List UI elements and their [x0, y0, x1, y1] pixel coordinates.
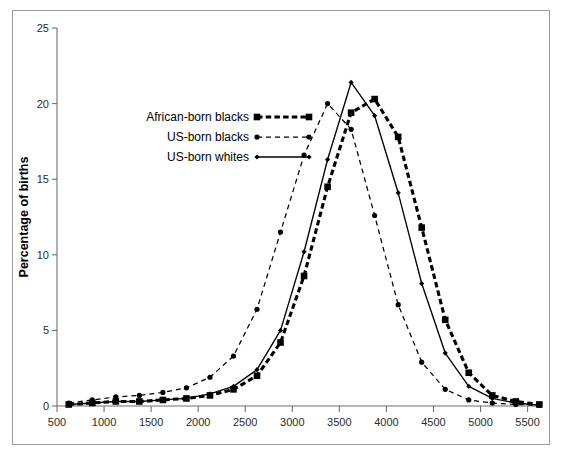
x-tick-label: 500: [48, 416, 66, 428]
data-point-marker: [325, 101, 330, 106]
y-axis-title: Percentage of births: [17, 157, 31, 278]
data-point-marker: [490, 400, 495, 405]
x-tick-label: 4500: [421, 416, 445, 428]
data-point-marker: [254, 307, 259, 312]
x-tick-label: 5500: [515, 416, 539, 428]
y-tick-label: 20: [37, 98, 49, 110]
x-axis-title: Birth weight (g): [251, 443, 343, 444]
data-point-marker: [324, 183, 331, 190]
x-tick-label: 2500: [233, 416, 257, 428]
data-point-marker: [306, 114, 313, 121]
data-point-marker: [465, 369, 472, 376]
data-point-marker: [442, 317, 449, 324]
data-point-marker: [419, 360, 424, 365]
y-tick-label: 10: [37, 249, 49, 261]
data-point-marker: [419, 281, 424, 286]
data-point-marker: [372, 213, 377, 218]
data-point-marker: [160, 390, 165, 395]
data-point-marker: [231, 354, 236, 359]
data-point-marker: [254, 134, 259, 139]
data-point-marker: [396, 302, 401, 307]
legend-label-2: US-born blacks: [167, 130, 249, 144]
data-point-marker: [301, 273, 308, 280]
y-tick-label: 0: [43, 400, 49, 412]
legend-label-1: African-born blacks: [146, 110, 249, 124]
data-point-marker: [325, 157, 330, 162]
data-point-marker: [254, 154, 259, 159]
x-tick-label: 5000: [468, 416, 492, 428]
x-tick-label: 3000: [280, 416, 304, 428]
y-tick-label: 15: [37, 173, 49, 185]
data-point-marker: [443, 387, 448, 392]
x-tick-label: 4000: [374, 416, 398, 428]
data-point-marker: [301, 249, 306, 254]
x-tick-label: 1500: [139, 416, 163, 428]
data-point-marker: [418, 224, 425, 231]
figure-panel: 0510152025500100015002000250030003500400…: [12, 10, 550, 445]
data-point-marker: [306, 134, 311, 139]
data-point-marker: [306, 154, 311, 159]
data-point-marker: [254, 372, 261, 379]
x-tick-label: 3500: [327, 416, 351, 428]
data-point-marker: [466, 397, 471, 402]
y-tick-label: 5: [43, 324, 49, 336]
data-point-marker: [254, 114, 261, 121]
chart-canvas: 0510152025500100015002000250030003500400…: [13, 11, 549, 444]
data-point-marker: [137, 393, 142, 398]
legend-label-3: US-born whites: [167, 150, 249, 164]
x-tick-label: 2000: [186, 416, 210, 428]
data-point-marker: [278, 230, 283, 235]
series-line-3: [69, 82, 540, 405]
data-point-marker: [277, 339, 284, 346]
data-point-marker: [348, 109, 355, 116]
data-point-marker: [396, 190, 401, 195]
data-point-marker: [395, 134, 402, 141]
data-point-marker: [184, 385, 189, 390]
data-point-marker: [207, 375, 212, 380]
x-tick-label: 1000: [92, 416, 116, 428]
y-tick-label: 25: [37, 22, 49, 34]
data-point-marker: [371, 96, 378, 103]
data-point-marker: [113, 394, 118, 399]
series-line-2: [69, 104, 540, 406]
data-point-marker: [349, 127, 354, 132]
